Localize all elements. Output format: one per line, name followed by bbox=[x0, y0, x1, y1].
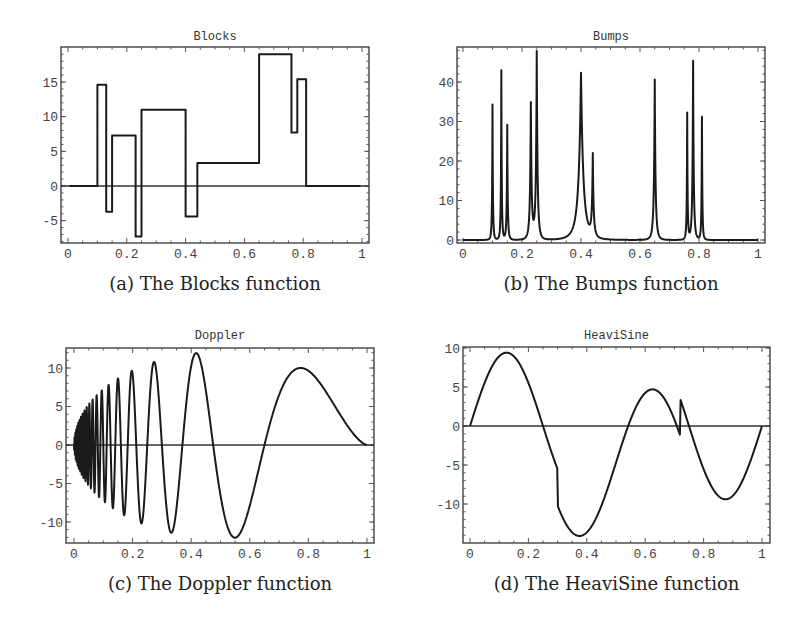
x-tick-label: 0.6 bbox=[233, 247, 256, 262]
panel-heavisine: HeaviSine00.20.40.60.81-10-50510(d) The … bbox=[437, 329, 770, 594]
x-tick-label: 0 bbox=[466, 547, 474, 562]
x-tick-label: 1 bbox=[363, 547, 371, 562]
x-tick-label: 0.6 bbox=[238, 547, 261, 562]
x-tick-label: 0.8 bbox=[297, 547, 320, 562]
x-tick-label: 0 bbox=[459, 247, 467, 262]
x-tick-label: 0.8 bbox=[687, 247, 710, 262]
y-tick-label: 0 bbox=[50, 180, 58, 195]
y-tick-label: 0 bbox=[446, 234, 454, 249]
figure-caption: (d) The HeaviSine function bbox=[494, 573, 740, 594]
y-tick-label: 0 bbox=[452, 420, 460, 435]
x-tick-label: 0.4 bbox=[174, 247, 198, 262]
x-tick-label: 1 bbox=[754, 247, 762, 262]
x-tick-label: 0 bbox=[64, 247, 72, 262]
series-line-bumps bbox=[463, 51, 758, 240]
panel-blocks: Blocks00.20.40.60.81-5051015(a) The Bloc… bbox=[42, 30, 369, 294]
y-tick-label: 10 bbox=[42, 110, 58, 125]
y-tick-label: 15 bbox=[42, 76, 58, 91]
y-tick-label: -5 bbox=[42, 214, 58, 229]
figure: Blocks00.20.40.60.81-5051015(a) The Bloc… bbox=[0, 0, 798, 632]
y-tick-label: 30 bbox=[438, 115, 454, 130]
figure-caption: (b) The Bumps function bbox=[504, 273, 719, 294]
x-tick-label: 0.8 bbox=[291, 247, 314, 262]
y-tick-label: -5 bbox=[47, 477, 63, 492]
y-tick-label: -5 bbox=[444, 459, 460, 474]
x-tick-label: 0.2 bbox=[115, 247, 138, 262]
x-tick-label: 0.4 bbox=[569, 247, 593, 262]
x-tick-label: 0.6 bbox=[628, 247, 651, 262]
x-tick-label: 0.2 bbox=[517, 547, 540, 562]
y-tick-label: 20 bbox=[438, 155, 454, 170]
series-line-blocks bbox=[69, 54, 360, 236]
plot-frame bbox=[463, 347, 770, 543]
panel-bumps: Bumps00.20.40.60.81010203040(b) The Bump… bbox=[438, 30, 765, 294]
x-tick-label: 0.2 bbox=[510, 247, 533, 262]
y-tick-label: -10 bbox=[40, 516, 63, 531]
y-tick-label: 0 bbox=[55, 439, 63, 454]
y-tick-label: 5 bbox=[55, 400, 63, 415]
y-tick-label: 40 bbox=[438, 76, 454, 91]
x-tick-label: 0.4 bbox=[575, 547, 599, 562]
chart-title: Blocks bbox=[193, 30, 236, 44]
series-line-heavisine bbox=[470, 353, 762, 536]
panel-doppler: Doppler00.20.40.60.81-10-50510(c) The Do… bbox=[40, 329, 374, 594]
x-tick-label: 0.2 bbox=[121, 547, 144, 562]
y-tick-label: 5 bbox=[452, 381, 460, 396]
y-tick-label: -10 bbox=[437, 498, 460, 513]
chart-title: HeaviSine bbox=[584, 329, 649, 343]
x-tick-label: 0.4 bbox=[179, 547, 203, 562]
chart-title: Doppler bbox=[195, 329, 245, 343]
y-tick-label: 10 bbox=[47, 362, 63, 377]
y-tick-label: 10 bbox=[444, 342, 460, 357]
y-tick-label: 5 bbox=[50, 145, 58, 160]
x-tick-label: 0 bbox=[70, 547, 78, 562]
y-tick-label: 10 bbox=[438, 194, 454, 209]
figure-caption: (a) The Blocks function bbox=[109, 273, 321, 294]
figure-caption: (c) The Doppler function bbox=[108, 573, 333, 594]
x-tick-label: 0.8 bbox=[692, 547, 715, 562]
x-tick-label: 0.6 bbox=[633, 547, 656, 562]
chart-title: Bumps bbox=[593, 30, 629, 44]
x-tick-label: 1 bbox=[758, 547, 766, 562]
x-tick-label: 1 bbox=[358, 247, 366, 262]
